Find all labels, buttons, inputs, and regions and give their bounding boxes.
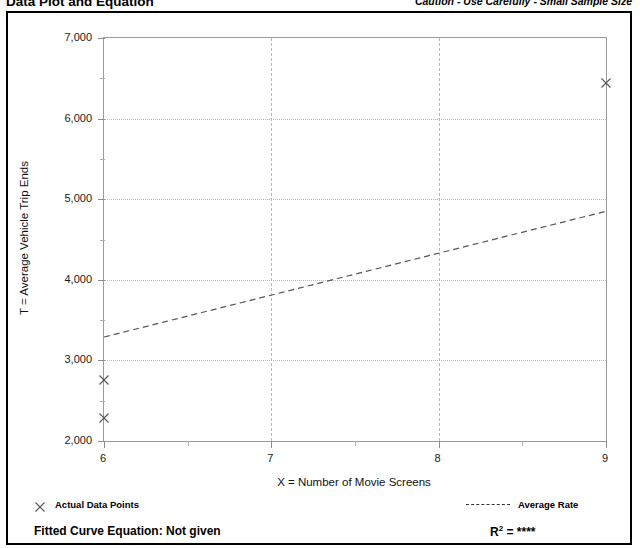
- x-axis-minor-tick: [188, 441, 189, 446]
- plot-area: [103, 37, 607, 442]
- equation-row: Fitted Curve Equation: Not given R2 = **…: [0, 524, 640, 544]
- chart-figure: T = Average Vehicle Trip Ends X = Number…: [0, 0, 640, 548]
- r2-prefix: R: [490, 525, 499, 539]
- y-axis-tick-label: 3,000: [64, 353, 92, 365]
- x-axis-tick: [271, 441, 272, 448]
- x-axis-tick-label: 7: [267, 452, 273, 464]
- x-axis-minor-tick: [522, 441, 523, 446]
- dashed-line-icon: [466, 504, 510, 505]
- legend-label-average-rate: Average Rate: [518, 499, 578, 510]
- x-axis-label: X = Number of Movie Screens: [277, 476, 431, 488]
- r2-value: = ****: [503, 525, 535, 539]
- x-axis-tick: [606, 441, 607, 448]
- x-axis-tick: [104, 441, 105, 448]
- y-axis-label: T = Average Vehicle Trip Ends: [18, 161, 30, 315]
- x-axis-tick-label: 9: [602, 452, 608, 464]
- legend-label-actual-data-points: Actual Data Points: [55, 499, 139, 510]
- y-axis-tick-label: 7,000: [64, 31, 92, 43]
- x-axis-tick-label: 6: [100, 452, 106, 464]
- fitted-curve-equation: Fitted Curve Equation: Not given: [34, 524, 221, 538]
- x-axis-tick: [439, 441, 440, 448]
- average-rate-trendline: [104, 38, 606, 441]
- x-marker-icon: [34, 499, 46, 511]
- chart-legend: Actual Data Points Average Rate: [0, 497, 640, 515]
- y-axis-tick-label: 4,000: [64, 273, 92, 285]
- y-axis-tick-label: 6,000: [64, 112, 92, 124]
- y-axis-tick-label: 2,000: [64, 434, 92, 446]
- r-squared-value: R2 = ****: [490, 524, 535, 539]
- x-axis-tick-label: 8: [435, 452, 441, 464]
- x-axis-minor-tick: [355, 441, 356, 446]
- y-axis-tick-label: 5,000: [64, 192, 92, 204]
